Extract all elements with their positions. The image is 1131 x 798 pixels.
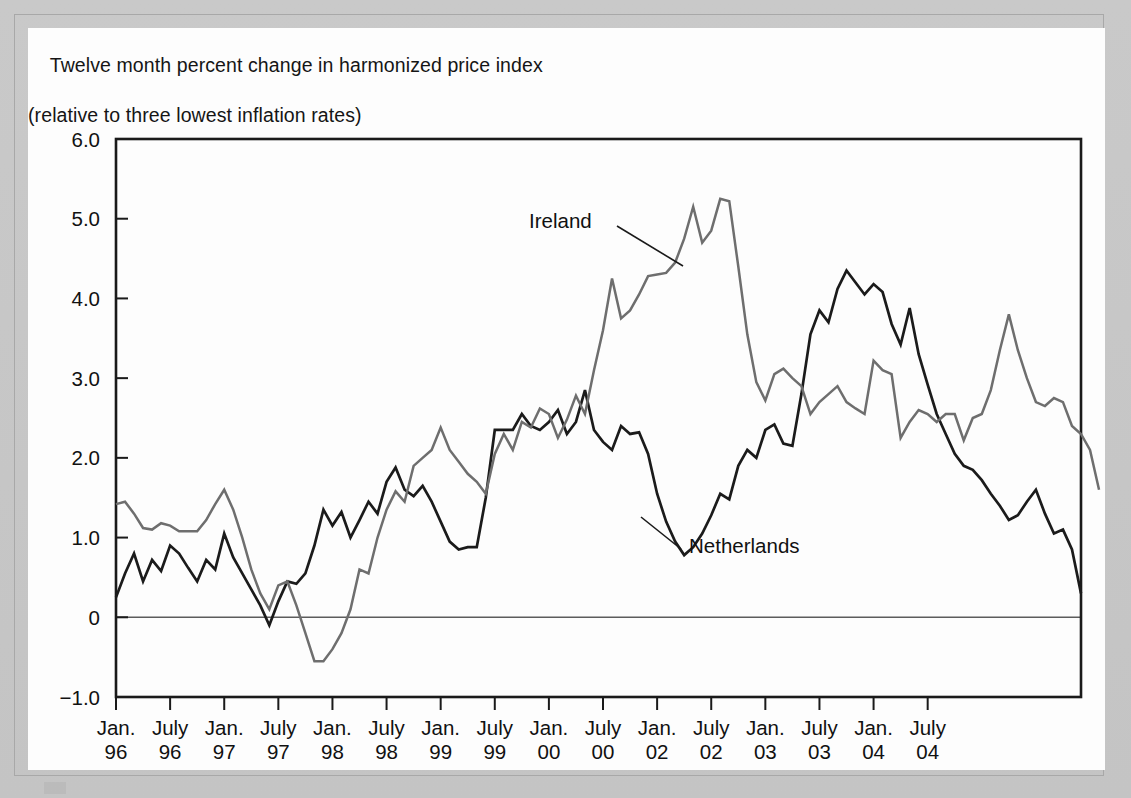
series-line-netherlands — [116, 271, 1081, 626]
x-axis-tick-label-month: Jan. — [421, 716, 460, 739]
series-label-ireland: Ireland — [529, 209, 592, 232]
x-axis-tick-label-year: 00 — [537, 740, 560, 763]
line-chart: 6.05.04.03.02.01.00−1.0 Jan.96July96Jan.… — [0, 0, 1131, 798]
x-axis-tick-label-year: 02 — [646, 740, 669, 763]
x-axis-tick-label-year: 02 — [700, 740, 723, 763]
x-axis-tick-label-year: 99 — [429, 740, 452, 763]
x-axis-tick-label-month: July — [477, 716, 514, 739]
x-axis-tick-label-year: 96 — [159, 740, 182, 763]
x-axis-labels: Jan.96July96Jan.97July97Jan.98July98Jan.… — [97, 716, 947, 763]
x-axis-tick-label-month: July — [585, 716, 622, 739]
y-axis-tick-label: 6.0 — [72, 128, 101, 151]
x-axis-tick-label-year: 03 — [808, 740, 831, 763]
x-axis-tick-label-month: Jan. — [97, 716, 136, 739]
x-axis-tick-label-month: Jan. — [313, 716, 352, 739]
x-axis-tick-label-month: July — [368, 716, 405, 739]
plot-area: 6.05.04.03.02.01.00−1.0 Jan.96July96Jan.… — [0, 0, 1131, 798]
x-axis-tick-label-month: July — [693, 716, 730, 739]
x-axis-tick-label-month: Jan. — [746, 716, 785, 739]
series-annotations: IrelandNetherlands — [529, 209, 800, 557]
leader-line-netherlands — [641, 517, 681, 549]
x-axis-tick-label-month: Jan. — [530, 716, 569, 739]
x-axis-tick-label-month: July — [801, 716, 838, 739]
page-background: Twelve month percent change in harmonize… — [0, 0, 1131, 798]
x-axis-tick-label-month: Jan. — [854, 716, 893, 739]
x-axis-tick-label-year: 04 — [916, 740, 939, 763]
y-axis-tick-label: −1.0 — [60, 686, 100, 709]
y-axis-tick-label: 2.0 — [72, 446, 101, 469]
x-axis-tick-label-year: 97 — [267, 740, 290, 763]
series-label-netherlands: Netherlands — [689, 534, 800, 557]
x-axis-tick-label-year: 98 — [375, 740, 398, 763]
y-axis-tick-label: 0 — [89, 606, 100, 629]
x-axis-tick-label-month: July — [260, 716, 297, 739]
series-group — [116, 199, 1099, 661]
plot-frame — [116, 139, 1081, 697]
leader-line-ireland — [617, 226, 683, 266]
x-axis-tick-label-month: July — [909, 716, 946, 739]
x-axis-tick-label-month: Jan. — [205, 716, 244, 739]
x-axis-tick-label-year: 03 — [754, 740, 777, 763]
x-axis-tick-label-year: 98 — [321, 740, 344, 763]
x-axis-tick-label-year: 00 — [592, 740, 615, 763]
y-axis-tick-label: 1.0 — [72, 526, 101, 549]
scan-artifact — [44, 782, 66, 794]
y-axis-tick-label: 5.0 — [72, 207, 101, 230]
x-axis-tick-label-year: 04 — [862, 740, 885, 763]
y-axis-labels: 6.05.04.03.02.01.00−1.0 — [60, 128, 100, 709]
series-line-ireland — [116, 199, 1099, 661]
x-axis-tick-label-month: Jan. — [638, 716, 677, 739]
x-axis-tick-label-year: 96 — [105, 740, 128, 763]
y-axis-tick-label: 3.0 — [72, 367, 101, 390]
y-axis-tick-label: 4.0 — [72, 287, 101, 310]
x-axis-tick-label-year: 99 — [483, 740, 506, 763]
x-axis-tick-label-month: July — [152, 716, 189, 739]
x-axis-tick-label-year: 97 — [213, 740, 236, 763]
